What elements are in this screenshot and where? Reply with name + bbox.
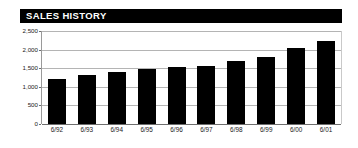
- bar-slot: [221, 31, 251, 124]
- bar-6/94: [108, 72, 126, 124]
- bar-slot: [311, 31, 341, 124]
- x-tick-label: 6/93: [72, 127, 102, 133]
- bar-6/92: [48, 79, 66, 124]
- y-tick-label: 500: [0, 102, 38, 108]
- bar-6/97: [197, 66, 215, 124]
- x-tick-label: 6/98: [221, 127, 251, 133]
- y-tick-label: 0: [0, 121, 38, 127]
- bar-slot: [162, 31, 192, 124]
- bar-series: [42, 31, 341, 124]
- bar-slot: [192, 31, 222, 124]
- bar-6/96: [168, 67, 186, 124]
- bar-slot: [132, 31, 162, 124]
- bar-6/95: [138, 69, 156, 124]
- y-tick-label: 1,000: [0, 84, 38, 90]
- x-tick-label: 6/96: [162, 127, 192, 133]
- bar-slot: [72, 31, 102, 124]
- bar-6/93: [78, 75, 96, 124]
- x-tick-label: 6/01: [311, 127, 341, 133]
- chart-title-bar: SALES HISTORY: [20, 9, 342, 23]
- bar-slot: [251, 31, 281, 124]
- x-tick-label: 6/94: [102, 127, 132, 133]
- bar-6/00: [287, 48, 305, 124]
- bar-slot: [281, 31, 311, 124]
- x-tick-label: 6/00: [281, 127, 311, 133]
- y-axis-labels: 05001,0001,5002,0002,500: [0, 31, 38, 124]
- chart-figure: SALES HISTORY 05001,0001,5002,0002,500 6…: [0, 0, 358, 148]
- y-tick-label: 2,500: [0, 28, 38, 34]
- x-tick-label: 6/97: [192, 127, 222, 133]
- bar-6/98: [227, 61, 245, 124]
- y-tick-label: 1,500: [0, 65, 38, 71]
- page-title: SALES HISTORY: [20, 11, 107, 21]
- bar-slot: [42, 31, 72, 124]
- x-axis-labels: 6/926/936/946/956/966/976/986/996/006/01: [42, 127, 341, 141]
- x-tick-label: 6/99: [251, 127, 281, 133]
- bar-6/01: [317, 41, 335, 124]
- y-tick-mark: [39, 124, 41, 125]
- bar-slot: [102, 31, 132, 124]
- bar-6/99: [257, 57, 275, 124]
- x-tick-label: 6/92: [42, 127, 72, 133]
- x-tick-label: 6/95: [132, 127, 162, 133]
- y-tick-label: 2,000: [0, 46, 38, 52]
- gridline-0: [42, 124, 341, 125]
